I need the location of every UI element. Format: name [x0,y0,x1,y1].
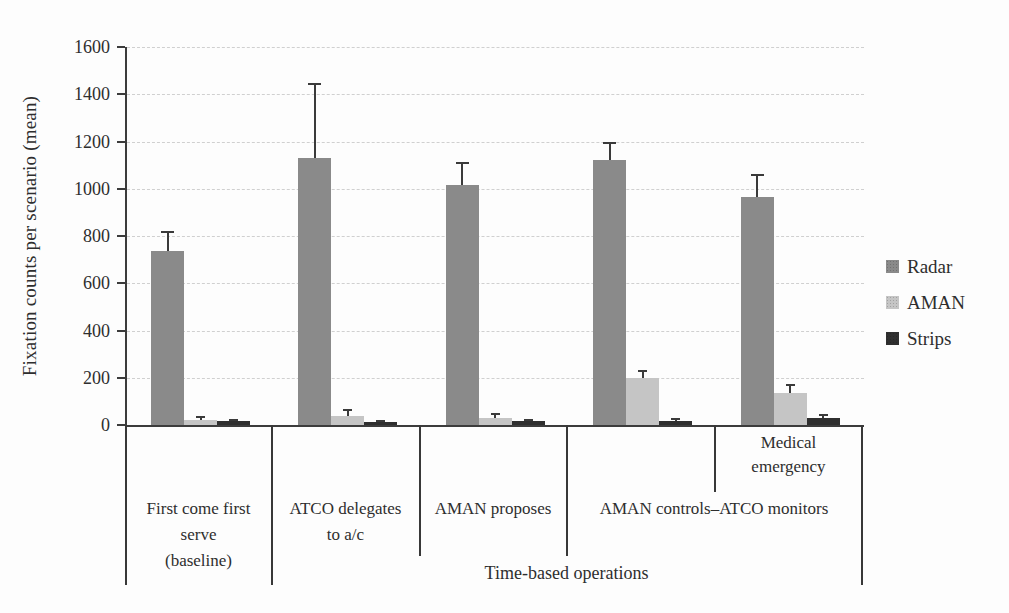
fixation-counts-bar-chart: Fixation counts per scenario (mean) 0200… [0,0,1009,613]
sub-label-medical-emergency: Medical emergency [715,431,862,479]
y-tick-label-1600: 1600 [0,36,110,58]
category-label-aman-controls-atco-monitors: AMAN controls–ATCO monitors [567,496,861,522]
bar-strips-group3 [512,421,545,425]
error-bar-radar-group1 [167,232,169,251]
group-label-time-based-operations: Time-based operations [272,561,861,585]
legend-label-radar: Radar [907,257,952,276]
y-tick-mark-800 [117,235,125,237]
y-tick-label-1200: 1200 [0,131,110,153]
error-cap-strips-group3 [524,419,533,421]
error-cap-aman-group5 [786,384,795,386]
category-label-atco-delegates: ATCO delegates to a/c [272,496,419,548]
radar-series-swatch-icon [886,260,899,273]
bar-radar-group2 [298,158,331,425]
bar-aman-group4 [626,378,659,425]
y-tick-label-800: 800 [0,225,110,247]
gridline-1400 [127,94,864,95]
legend-item-strips: Strips [886,320,965,356]
y-tick-label-600: 600 [0,272,110,294]
error-cap-strips-group4 [671,418,680,420]
y-tick-mark-200 [117,377,125,379]
y-tick-label-1400: 1400 [0,83,110,105]
error-cap-strips-group5 [819,414,828,416]
error-cap-radar-group5 [751,174,764,176]
aman-series-swatch-icon [886,296,899,309]
y-tick-mark-1600 [117,46,125,48]
legend-item-radar: Radar [886,248,965,284]
bar-aman-group3 [479,418,512,425]
legend-label-aman: AMAN [907,293,965,312]
bar-aman-group2 [331,416,364,425]
y-tick-mark-1200 [117,141,125,143]
error-cap-strips-group2 [376,420,385,422]
error-cap-radar-group4 [603,142,616,144]
error-bar-radar-group3 [461,163,463,185]
y-tick-label-1000: 1000 [0,178,110,200]
y-tick-mark-600 [117,282,125,284]
gridline-1000 [127,189,864,190]
y-tick-label-0: 0 [0,414,110,436]
legend-item-aman: AMAN [886,284,965,320]
error-cap-aman-group1 [196,416,205,418]
bar-strips-group1 [217,421,250,425]
error-cap-radar-group3 [456,162,469,164]
y-tick-label-400: 400 [0,320,110,342]
plot-area [125,47,864,427]
error-bar-radar-group2 [314,84,316,158]
y-tick-mark-1400 [117,93,125,95]
bar-strips-group5 [807,418,840,425]
error-cap-strips-group1 [229,419,238,421]
bar-radar-group3 [446,185,479,425]
error-cap-radar-group1 [161,231,174,233]
y-tick-mark-1000 [117,188,125,190]
error-cap-radar-group2 [308,83,321,85]
gridline-1600 [127,47,864,48]
bar-strips-group2 [364,422,397,425]
category-label-first-come-first-serve: First come first serve (baseline) [125,496,272,574]
category-divider-3-4 [566,425,568,556]
error-bar-aman-group4 [642,371,644,378]
y-tick-mark-0 [117,424,125,426]
bar-aman-group1 [184,420,217,425]
error-bar-aman-group5 [789,385,791,393]
bar-radar-group1 [151,251,184,425]
bar-radar-group4 [593,160,626,425]
strips-series-swatch-icon [886,332,899,345]
error-bar-radar-group4 [609,143,611,161]
error-cap-aman-group4 [638,370,647,372]
legend-label-strips: Strips [907,329,951,348]
category-label-aman-proposes: AMAN proposes [420,496,566,522]
error-bar-radar-group5 [756,175,758,197]
bar-radar-group5 [741,197,774,425]
error-cap-aman-group3 [491,413,500,415]
error-cap-aman-group2 [343,409,352,411]
y-tick-mark-400 [117,330,125,332]
bar-strips-group4 [659,421,692,425]
y-tick-label-200: 200 [0,367,110,389]
legend: Radar AMAN Strips [886,248,965,356]
category-divider-2-3 [419,425,421,556]
bar-aman-group5 [774,393,807,425]
gridline-1200 [127,142,864,143]
